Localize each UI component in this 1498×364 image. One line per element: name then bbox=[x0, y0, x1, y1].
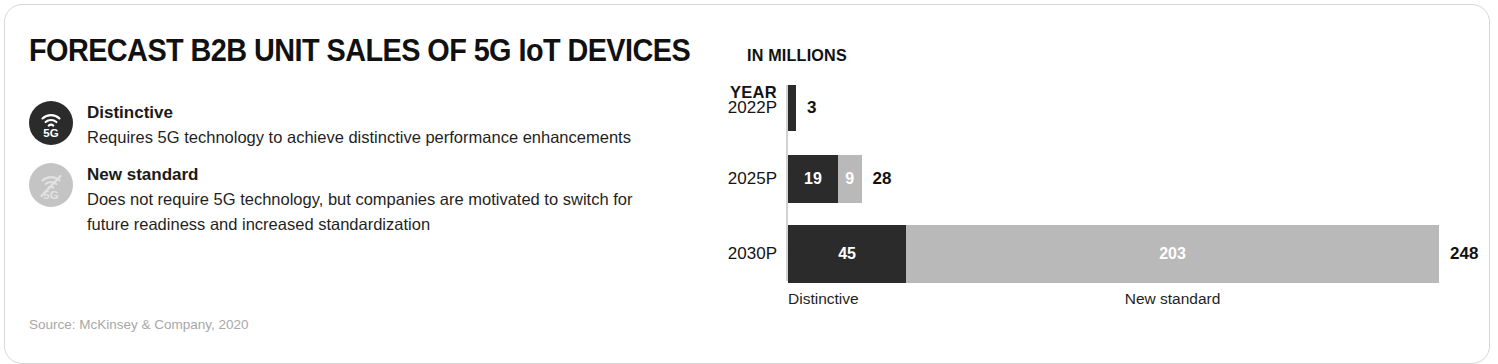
chart-segment-new-standard: 9 bbox=[838, 155, 862, 203]
title-main-text: FORECAST B2B UNIT SALES OF 5G IoT DEVICE… bbox=[29, 33, 690, 69]
legend-title-distinctive: Distinctive bbox=[87, 102, 631, 124]
infographic-card: FORECAST B2B UNIT SALES OF 5G IoT DEVICE… bbox=[4, 4, 1490, 364]
page-title: FORECAST B2B UNIT SALES OF 5G IoT DEVICE… bbox=[29, 33, 852, 69]
chart-segment-new-standard: 203 bbox=[906, 225, 1439, 283]
legend-description-distinctive: Requires 5G technology to achieve distin… bbox=[87, 125, 631, 150]
legend-text-distinctive: Distinctive Requires 5G technology to ac… bbox=[87, 101, 631, 150]
chart-segment-distinctive bbox=[788, 85, 796, 131]
chart-bars-2025p: 199 bbox=[788, 155, 862, 203]
legend-description-new-standard: Does not require 5G technology, but comp… bbox=[87, 187, 669, 237]
chart-row-label-2030p: 2030P bbox=[705, 225, 777, 283]
5g-signal-crossed-out-icon: 5G bbox=[29, 163, 73, 207]
chart-row-label-2025p: 2025P bbox=[705, 155, 777, 203]
chart-total-label: 248 bbox=[1450, 244, 1478, 264]
legend: 5G Distinctive Requires 5G technology to… bbox=[29, 101, 669, 250]
chart-segment-value: 19 bbox=[788, 170, 838, 188]
chart-category-label-new-standard: New standard bbox=[1125, 290, 1221, 308]
chart-row-label-2022p: 2022P bbox=[705, 85, 777, 131]
chart-segment-distinctive: 45 bbox=[788, 225, 906, 283]
chart-total-label: 3 bbox=[807, 98, 816, 118]
legend-title-new-standard: New standard bbox=[87, 164, 669, 186]
5g-signal-icon: 5G bbox=[29, 101, 73, 145]
stacked-bar-chart: YEAR 2022P 2025P 199 2030P 45203 Distinc… bbox=[705, 79, 1495, 309]
chart-bars-2022p bbox=[788, 85, 796, 131]
svg-text:5G: 5G bbox=[43, 127, 58, 139]
chart-segment-value: 203 bbox=[906, 245, 1439, 263]
source-note: Source: McKinsey & Company, 2020 bbox=[29, 317, 249, 332]
chart-segment-distinctive: 19 bbox=[788, 155, 838, 203]
chart-total-label: 28 bbox=[873, 169, 892, 189]
legend-text-new-standard: New standard Does not require 5G technol… bbox=[87, 163, 669, 237]
chart-category-label-distinctive: Distinctive bbox=[788, 290, 859, 308]
legend-item-distinctive: 5G Distinctive Requires 5G technology to… bbox=[29, 101, 669, 150]
chart-bars-2030p: 45203 bbox=[788, 225, 1439, 283]
legend-item-new-standard: 5G New standard Does not require 5G tech… bbox=[29, 163, 669, 237]
chart-segment-value: 45 bbox=[788, 245, 906, 263]
title-units-text: IN MILLIONS bbox=[747, 46, 847, 66]
chart-segment-value: 9 bbox=[838, 170, 862, 188]
